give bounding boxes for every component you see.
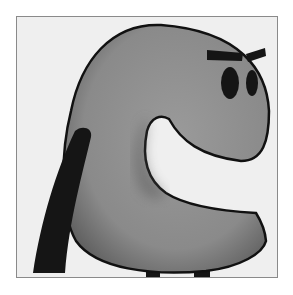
body: [63, 25, 269, 273]
creature-illustration: [17, 17, 278, 278]
right-brow: [246, 48, 266, 62]
illustration-frame: C-shaped cartoon creature: [16, 16, 278, 278]
right-eye: [246, 70, 258, 96]
left-eye: [221, 67, 239, 99]
